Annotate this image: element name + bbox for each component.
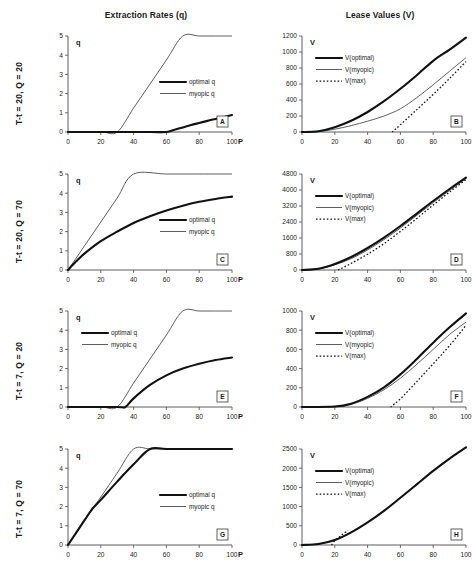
y-axis-name: q [76,38,81,47]
panel-id-label: D [454,256,459,263]
x-tick-label: 40 [364,138,372,145]
legend-label: myopic q [189,90,215,98]
panel-id-label: E [220,393,225,400]
y-tick-label: 200 [286,112,297,119]
x-tick-label: 20 [97,276,105,283]
panel-G: 012345020406080100qPoptimal qmyopic qG [26,439,238,563]
chart-F: 02004006008001000020406080100VPV(optimal… [260,301,472,433]
legend-label: V(myopic) [345,66,374,74]
y-tick-label: 1200 [282,32,297,39]
x-axis-name: P [238,550,243,559]
series-line [302,179,466,270]
series-line [302,313,466,407]
x-tick-label: 0 [66,551,70,558]
panel-id-label: F [454,393,458,400]
x-tick-label: 0 [300,413,304,420]
column-title-lease: Lease Values (V) [292,10,468,20]
y-tick-label: 4000 [282,186,297,193]
x-tick-label: 0 [300,276,304,283]
chart-C: 012345020406080100qPoptimal qmyopic qC [26,164,238,296]
y-tick-label: 1000 [282,307,297,314]
panel-B: 020040060080010001200020406080100VPV(opt… [260,26,472,158]
x-axis-name: P [238,412,243,421]
y-tick-label: 1000 [282,503,297,510]
series-line [302,447,466,545]
y-tick-label: 1 [59,384,63,391]
y-tick-label: 3 [59,71,63,78]
legend-label: optimal q [111,329,137,337]
figure-root: Extraction Rates (q) Lease Values (V) T-… [0,0,472,563]
y-tick-label: 4 [59,190,63,197]
y-tick-label: 4 [59,327,63,334]
y-tick-label: 0 [293,266,297,273]
x-tick-label: 0 [66,276,70,283]
series-line [68,115,232,132]
legend-label: V(optimal) [345,54,374,62]
x-tick-label: 0 [66,413,70,420]
y-tick-label: 3 [59,209,63,216]
y-tick-label: 400 [286,96,297,103]
panel-id-label: H [454,531,459,538]
y-tick-label: 1000 [282,48,297,55]
y-tick-label: 600 [286,346,297,353]
legend-label: myopic q [189,228,215,236]
y-tick-label: 4800 [282,170,297,177]
chart-D: 080016002400320040004800020406080100VPV(… [260,164,472,296]
y-axis-name: q [76,313,81,322]
series-line [302,178,466,270]
legend-label: V(optimal) [345,467,374,475]
x-tick-label: 40 [130,551,138,558]
panel-E: 012345020406080100qPoptimal qmyopic qE [26,301,238,433]
x-tick-label: 60 [397,138,405,145]
y-tick-label: 0 [59,266,63,273]
y-tick-label: 1 [59,522,63,529]
x-tick-label: 60 [397,413,405,420]
x-tick-label: 80 [430,276,438,283]
y-axis-name: V [310,176,315,185]
panel-id-label: C [220,256,225,263]
y-axis-name: V [310,313,315,322]
legend-label: V(max) [345,490,366,498]
chart-G: 012345020406080100qPoptimal qmyopic qG [26,439,238,563]
legend-label: V(optimal) [345,329,374,337]
y-tick-label: 500 [286,522,297,529]
legend-label: optimal q [189,491,215,499]
y-tick-label: 0 [59,403,63,410]
x-tick-label: 100 [226,138,237,145]
y-tick-label: 0 [293,128,297,135]
y-axis-name: V [310,451,315,460]
y-tick-label: 3 [59,346,63,353]
x-tick-label: 80 [196,551,204,558]
x-tick-label: 80 [430,551,438,558]
x-tick-label: 40 [130,138,138,145]
y-tick-label: 3200 [282,202,297,209]
y-tick-label: 2500 [282,445,297,452]
x-tick-label: 40 [364,551,372,558]
panel-H: 05001000150020002500020406080100VPV(opti… [260,439,472,563]
y-tick-label: 400 [286,365,297,372]
row-label-1: T-t = 20, Q = 20 [14,62,24,125]
legend-label: myopic q [189,503,215,511]
panel-id-label: B [454,118,459,125]
x-tick-label: 0 [66,138,70,145]
y-tick-label: 2 [59,228,63,235]
series-line [302,58,466,132]
x-tick-label: 20 [331,138,339,145]
y-axis-name: q [76,176,81,185]
legend-label: myopic q [111,341,137,349]
x-tick-label: 80 [430,413,438,420]
y-axis-name: q [76,451,81,460]
legend-label: optimal q [189,78,215,86]
x-tick-label: 40 [130,276,138,283]
row-label-3: T-t = 7, Q = 20 [14,342,24,400]
x-tick-label: 20 [97,551,105,558]
x-tick-label: 60 [397,276,405,283]
x-tick-label: 60 [397,551,405,558]
y-tick-label: 2400 [282,218,297,225]
series-line [68,357,232,407]
x-tick-label: 60 [163,276,171,283]
x-tick-label: 20 [331,276,339,283]
y-tick-label: 200 [286,384,297,391]
y-tick-label: 0 [293,403,297,410]
y-tick-label: 800 [286,250,297,257]
